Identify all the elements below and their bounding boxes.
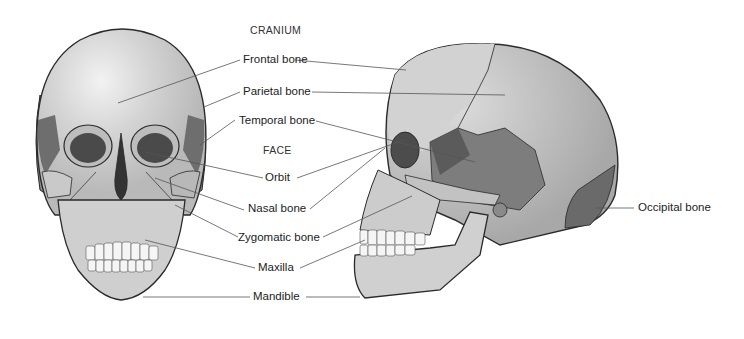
label-mandible: Mandible <box>253 291 300 303</box>
cranium-heading: CRANIUM <box>250 24 301 36</box>
label-occipital-bone: Occipital bone <box>638 202 711 214</box>
skull-illustration <box>0 0 744 339</box>
label-parietal-bone: Parietal bone <box>243 86 311 98</box>
lateral-skull <box>354 44 617 298</box>
anterior-skull <box>36 29 206 300</box>
skull-diagram: CRANIUM FACE Frontal bone Parietal bone … <box>0 0 744 339</box>
label-orbit: Orbit <box>265 172 290 184</box>
label-zygomatic-bone: Zygomatic bone <box>238 232 320 244</box>
label-frontal-bone: Frontal bone <box>243 54 308 66</box>
face-heading: FACE <box>263 144 292 156</box>
label-temporal-bone: Temporal bone <box>239 115 315 127</box>
label-maxilla: Maxilla <box>258 262 294 274</box>
label-nasal-bone: Nasal bone <box>248 203 306 215</box>
